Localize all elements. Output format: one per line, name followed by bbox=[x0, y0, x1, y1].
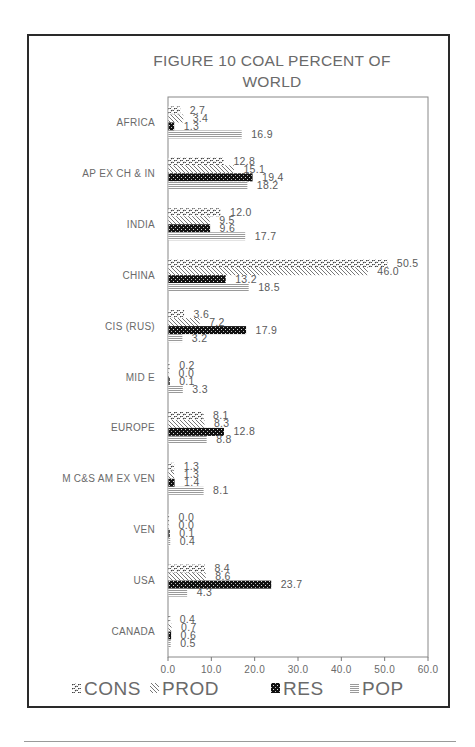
data-label: 4.3 bbox=[197, 586, 213, 598]
bar-res bbox=[169, 632, 172, 640]
data-label: 8.8 bbox=[216, 433, 232, 445]
bar-cons bbox=[169, 412, 204, 420]
bar-res bbox=[169, 122, 175, 130]
bar-cons bbox=[169, 616, 171, 624]
bars-group: 2.73.41.316.912.815.119.418.212.09.59.61… bbox=[169, 104, 419, 649]
bar-cons bbox=[169, 157, 224, 165]
category-label: EUROPE bbox=[111, 422, 155, 433]
bar-pop bbox=[169, 334, 183, 342]
bar-cons bbox=[169, 310, 185, 318]
chart-title-line-1: FIGURE 10 COAL PERCENT OF bbox=[153, 52, 390, 69]
data-label: 17.7 bbox=[255, 230, 277, 242]
legend-label-pop: POP bbox=[362, 678, 404, 699]
category-label: MID E bbox=[126, 372, 155, 383]
chart-title-line-2: WORLD bbox=[242, 73, 301, 90]
data-label: 0.4 bbox=[180, 535, 196, 547]
category-label: CANADA bbox=[112, 626, 156, 637]
data-label: 17.9 bbox=[256, 324, 278, 336]
bar-res bbox=[169, 275, 226, 283]
bar-cons bbox=[169, 259, 388, 267]
bar-pop bbox=[169, 436, 207, 444]
x-tick-label: 20.0 bbox=[244, 664, 265, 675]
bar-pop bbox=[169, 232, 246, 240]
category-label: AFRICA bbox=[117, 117, 155, 128]
x-tick-label: 10.0 bbox=[201, 664, 222, 675]
legend-swatch-prod bbox=[150, 683, 159, 693]
bar-prod bbox=[169, 369, 170, 377]
data-label: 18.5 bbox=[258, 281, 280, 293]
bar-cons bbox=[169, 208, 221, 216]
category-label: AP EX CH & IN bbox=[82, 168, 155, 179]
legend-label-res: RES bbox=[283, 678, 324, 699]
bar-prod bbox=[169, 471, 175, 479]
bar-pop bbox=[169, 640, 171, 648]
data-label: 50.5 bbox=[397, 257, 419, 269]
data-label: 7.2 bbox=[209, 316, 225, 328]
bar-prod bbox=[169, 165, 234, 173]
bar-res bbox=[169, 581, 272, 589]
data-label: 1.3 bbox=[184, 120, 200, 132]
bar-prod bbox=[169, 420, 205, 428]
data-label: 23.7 bbox=[281, 578, 303, 590]
bar-prod bbox=[169, 624, 172, 632]
bar-cons bbox=[169, 514, 170, 522]
bar-pop bbox=[169, 283, 249, 291]
legend-swatch-res bbox=[271, 683, 280, 693]
bar-pop bbox=[169, 589, 188, 597]
bar-pop bbox=[169, 487, 204, 495]
bar-res bbox=[169, 224, 211, 232]
bar-chart: FIGURE 10 COAL PERCENT OF WORLD 2.73.41.… bbox=[0, 0, 475, 747]
x-tick-label: 50.0 bbox=[374, 664, 395, 675]
category-label: USA bbox=[134, 575, 155, 586]
data-label: 8.3 bbox=[214, 417, 230, 429]
data-label: 12.8 bbox=[233, 425, 255, 437]
bar-pop bbox=[169, 181, 248, 189]
bar-prod bbox=[169, 114, 184, 122]
x-tick-label: 40.0 bbox=[331, 664, 352, 675]
data-label: 46.0 bbox=[377, 265, 399, 277]
legend-swatch-pop bbox=[350, 683, 359, 693]
data-label: 0.5 bbox=[180, 637, 196, 649]
bar-pop bbox=[169, 385, 183, 393]
category-label: CHINA bbox=[122, 270, 155, 281]
category-label: CIS (RUS) bbox=[105, 321, 155, 332]
x-axis: 0.010.020.030.040.050.060.0 bbox=[161, 657, 439, 675]
bar-cons bbox=[169, 463, 175, 471]
bar-res bbox=[169, 377, 170, 385]
x-tick-label: 60.0 bbox=[418, 664, 439, 675]
legend-swatch-cons bbox=[72, 683, 81, 693]
bar-pop bbox=[169, 130, 242, 138]
data-label: 1.4 bbox=[184, 476, 200, 488]
category-labels: AFRICAAP EX CH & ININDIACHINACIS (RUS)MI… bbox=[62, 117, 155, 637]
x-tick-label: 30.0 bbox=[288, 664, 309, 675]
bar-cons bbox=[169, 361, 170, 369]
category-label: INDIA bbox=[127, 219, 155, 230]
page-separator bbox=[24, 741, 456, 742]
data-label: 18.2 bbox=[257, 179, 279, 191]
data-label: 3.6 bbox=[194, 308, 210, 320]
bar-res bbox=[169, 173, 253, 181]
bar-prod bbox=[169, 318, 200, 326]
legend: CONSPRODRESPOP bbox=[72, 678, 404, 699]
bar-res bbox=[169, 530, 170, 538]
bar-prod bbox=[169, 522, 170, 530]
bar-prod bbox=[169, 573, 206, 581]
legend-label-prod: PROD bbox=[162, 678, 219, 699]
bar-pop bbox=[169, 538, 171, 546]
category-label: VEN bbox=[134, 524, 155, 535]
bar-res bbox=[169, 479, 175, 487]
x-tick-label: 0.0 bbox=[161, 664, 176, 675]
bar-prod bbox=[169, 267, 368, 275]
bar-cons bbox=[169, 565, 205, 573]
data-label: 8.1 bbox=[213, 484, 229, 496]
data-label: 9.6 bbox=[220, 222, 236, 234]
data-label: 16.9 bbox=[251, 128, 273, 140]
category-label: M C&S AM EX VEN bbox=[62, 473, 155, 484]
data-label: 8.6 bbox=[215, 570, 231, 582]
bar-prod bbox=[169, 216, 210, 224]
legend-label-cons: CONS bbox=[84, 678, 141, 699]
data-label: 13.2 bbox=[235, 273, 257, 285]
data-label: 3.3 bbox=[192, 383, 208, 395]
data-label: 3.2 bbox=[192, 332, 208, 344]
bar-cons bbox=[169, 106, 181, 114]
